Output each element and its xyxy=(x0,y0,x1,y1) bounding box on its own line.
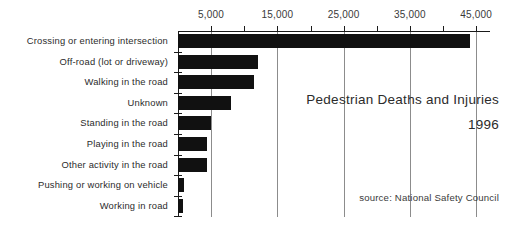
category-label: Playing in the road xyxy=(87,134,168,155)
category-label: Standing in the road xyxy=(80,113,168,134)
bar xyxy=(178,178,184,192)
chart-source-note: source: National Safety Council xyxy=(359,192,499,203)
x-axis-tick-label: 15,000 xyxy=(261,9,293,20)
bar xyxy=(178,199,183,213)
category-label: Walking in the road xyxy=(85,72,168,93)
x-axis-tick-label: 25,000 xyxy=(328,9,360,20)
x-axis-tick-label: 35,000 xyxy=(394,9,426,20)
category-label: Unknown xyxy=(128,93,168,114)
bar xyxy=(178,158,207,172)
bar-chart-figure: Crossing or entering intersection Off-ro… xyxy=(0,0,515,232)
bar-series xyxy=(178,31,490,217)
x-axis-tick-label: 45,000 xyxy=(460,9,492,20)
category-label: Off-road (lot or driveway) xyxy=(60,52,168,73)
bar xyxy=(178,55,258,69)
category-label: Crossing or entering intersection xyxy=(27,31,168,52)
bar xyxy=(178,34,470,48)
chart-title: Pedestrian Deaths and Injuries xyxy=(306,92,499,107)
plot-area: 5,000 15,000 25,000 35,000 45,000 xyxy=(178,31,490,217)
chart-subtitle-year: 1996 xyxy=(468,117,499,132)
bar xyxy=(178,96,231,110)
category-label: Working in road xyxy=(100,196,168,217)
category-label: Pushing or working on vehicle xyxy=(38,175,168,196)
x-axis-tick-label: 5,000 xyxy=(198,9,224,20)
bar xyxy=(178,116,211,130)
bar xyxy=(178,137,207,151)
category-label: Other activity in the road xyxy=(62,155,169,176)
category-axis-labels: Crossing or entering intersection Off-ro… xyxy=(0,31,172,217)
bar xyxy=(178,75,254,89)
